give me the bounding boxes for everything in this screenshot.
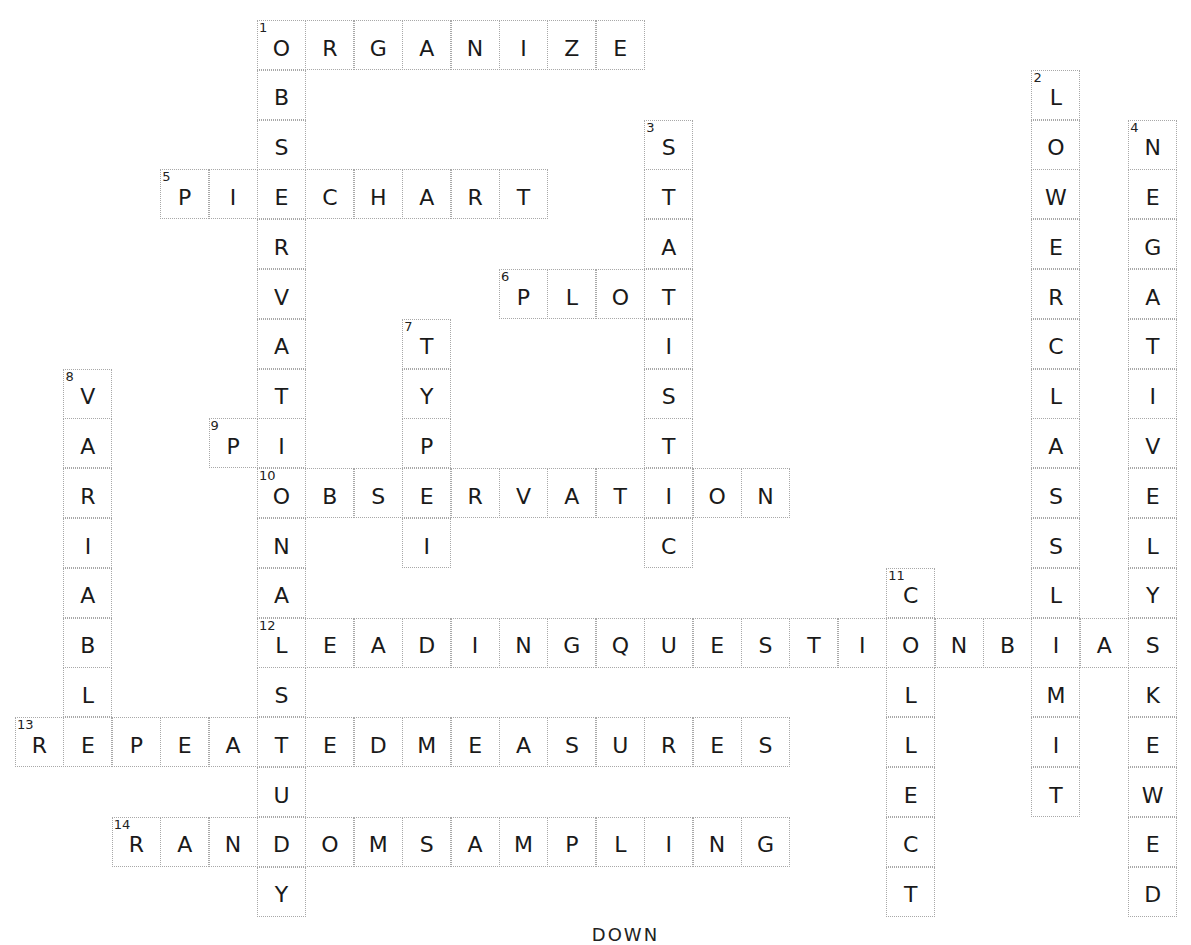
crossword-cell[interactable]: I bbox=[257, 418, 306, 468]
crossword-cell[interactable]: E bbox=[886, 767, 935, 817]
crossword-cell[interactable]: E bbox=[451, 717, 500, 767]
crossword-cell[interactable]: R bbox=[63, 468, 112, 518]
crossword-cell[interactable]: U bbox=[644, 618, 693, 668]
crossword-cell[interactable]: D bbox=[1128, 867, 1177, 917]
crossword-cell[interactable]: I bbox=[451, 618, 500, 668]
crossword-cell[interactable]: W bbox=[1128, 767, 1177, 817]
crossword-cell[interactable]: N bbox=[451, 20, 500, 70]
crossword-cell[interactable]: L bbox=[547, 269, 596, 319]
crossword-cell[interactable]: E bbox=[693, 618, 742, 668]
crossword-cell[interactable]: L bbox=[886, 667, 935, 717]
crossword-cell[interactable]: I bbox=[402, 518, 451, 568]
crossword-cell[interactable]: L bbox=[1128, 518, 1177, 568]
crossword-cell[interactable]: G bbox=[354, 20, 403, 70]
crossword-cell[interactable]: M bbox=[1031, 667, 1080, 717]
crossword-cell[interactable]: S bbox=[402, 817, 451, 867]
crossword-cell[interactable]: Y bbox=[402, 369, 451, 419]
crossword-cell[interactable]: S bbox=[1031, 468, 1080, 518]
crossword-cell[interactable]: T bbox=[257, 717, 306, 767]
crossword-cell[interactable]: I bbox=[644, 817, 693, 867]
crossword-cell[interactable]: G bbox=[547, 618, 596, 668]
crossword-cell[interactable]: 12L bbox=[257, 618, 306, 668]
crossword-cell[interactable]: B bbox=[63, 618, 112, 668]
crossword-cell[interactable]: I bbox=[1031, 717, 1080, 767]
crossword-cell[interactable]: Y bbox=[1128, 568, 1177, 618]
crossword-cell[interactable]: C bbox=[1031, 319, 1080, 369]
crossword-cell[interactable]: 3S bbox=[644, 120, 693, 170]
crossword-cell[interactable]: S bbox=[257, 667, 306, 717]
crossword-cell[interactable]: U bbox=[257, 767, 306, 817]
crossword-cell[interactable]: T bbox=[1031, 767, 1080, 817]
crossword-cell[interactable]: E bbox=[1128, 169, 1177, 219]
crossword-cell[interactable]: A bbox=[1031, 418, 1080, 468]
crossword-cell[interactable]: A bbox=[1080, 618, 1129, 668]
crossword-cell[interactable]: A bbox=[354, 618, 403, 668]
crossword-cell[interactable]: A bbox=[402, 169, 451, 219]
crossword-cell[interactable]: B bbox=[305, 468, 354, 518]
crossword-cell[interactable]: 14R bbox=[112, 817, 161, 867]
crossword-cell[interactable]: O bbox=[693, 468, 742, 518]
crossword-cell[interactable]: Z bbox=[547, 20, 596, 70]
crossword-cell[interactable]: A bbox=[257, 319, 306, 369]
crossword-cell[interactable]: A bbox=[547, 468, 596, 518]
crossword-cell[interactable]: M bbox=[402, 717, 451, 767]
crossword-cell[interactable]: E bbox=[596, 20, 645, 70]
crossword-cell[interactable]: E bbox=[305, 618, 354, 668]
crossword-cell[interactable]: N bbox=[257, 518, 306, 568]
crossword-cell[interactable]: O bbox=[596, 269, 645, 319]
crossword-cell[interactable]: T bbox=[1128, 319, 1177, 369]
crossword-cell[interactable]: P bbox=[547, 817, 596, 867]
crossword-cell[interactable]: O bbox=[1031, 120, 1080, 170]
crossword-cell[interactable]: 7T bbox=[402, 319, 451, 369]
crossword-cell[interactable]: E bbox=[1128, 468, 1177, 518]
crossword-cell[interactable]: 5P bbox=[160, 169, 209, 219]
crossword-cell[interactable]: 10O bbox=[257, 468, 306, 518]
crossword-cell[interactable]: R bbox=[644, 717, 693, 767]
crossword-cell[interactable]: D bbox=[354, 717, 403, 767]
crossword-cell[interactable]: V bbox=[499, 468, 548, 518]
crossword-cell[interactable]: E bbox=[402, 468, 451, 518]
crossword-cell[interactable]: 4N bbox=[1128, 120, 1177, 170]
crossword-cell[interactable]: S bbox=[1031, 518, 1080, 568]
crossword-cell[interactable]: B bbox=[257, 70, 306, 120]
crossword-cell[interactable]: 6P bbox=[499, 269, 548, 319]
crossword-cell[interactable]: N bbox=[209, 817, 258, 867]
crossword-cell[interactable]: S bbox=[741, 618, 790, 668]
crossword-cell[interactable]: Q bbox=[596, 618, 645, 668]
crossword-cell[interactable]: V bbox=[257, 269, 306, 319]
crossword-cell[interactable]: E bbox=[1128, 717, 1177, 767]
crossword-cell[interactable]: E bbox=[305, 717, 354, 767]
crossword-cell[interactable]: S bbox=[354, 468, 403, 518]
crossword-cell[interactable]: A bbox=[1128, 269, 1177, 319]
crossword-cell[interactable]: C bbox=[305, 169, 354, 219]
crossword-cell[interactable]: L bbox=[1031, 568, 1080, 618]
crossword-cell[interactable]: T bbox=[886, 867, 935, 917]
crossword-cell[interactable]: I bbox=[644, 468, 693, 518]
crossword-cell[interactable]: A bbox=[209, 717, 258, 767]
crossword-cell[interactable]: K bbox=[1128, 667, 1177, 717]
crossword-cell[interactable]: R bbox=[451, 169, 500, 219]
crossword-cell[interactable]: T bbox=[644, 169, 693, 219]
crossword-cell[interactable]: T bbox=[257, 369, 306, 419]
crossword-cell[interactable]: 11C bbox=[886, 568, 935, 618]
crossword-cell[interactable]: A bbox=[402, 20, 451, 70]
crossword-cell[interactable]: S bbox=[644, 369, 693, 419]
crossword-cell[interactable]: D bbox=[402, 618, 451, 668]
crossword-cell[interactable]: A bbox=[63, 568, 112, 618]
crossword-cell[interactable]: I bbox=[1128, 369, 1177, 419]
crossword-cell[interactable]: T bbox=[499, 169, 548, 219]
crossword-cell[interactable]: A bbox=[644, 219, 693, 269]
crossword-cell[interactable]: N bbox=[935, 618, 984, 668]
crossword-cell[interactable]: B bbox=[983, 618, 1032, 668]
crossword-cell[interactable]: I bbox=[209, 169, 258, 219]
crossword-cell[interactable]: 8V bbox=[63, 369, 112, 419]
crossword-cell[interactable]: U bbox=[596, 717, 645, 767]
crossword-cell[interactable]: S bbox=[257, 120, 306, 170]
crossword-cell[interactable]: O bbox=[886, 618, 935, 668]
crossword-cell[interactable]: E bbox=[160, 717, 209, 767]
crossword-cell[interactable]: A bbox=[160, 817, 209, 867]
crossword-cell[interactable]: H bbox=[354, 169, 403, 219]
crossword-cell[interactable]: I bbox=[1031, 618, 1080, 668]
crossword-cell[interactable]: A bbox=[257, 568, 306, 618]
crossword-cell[interactable]: T bbox=[644, 269, 693, 319]
